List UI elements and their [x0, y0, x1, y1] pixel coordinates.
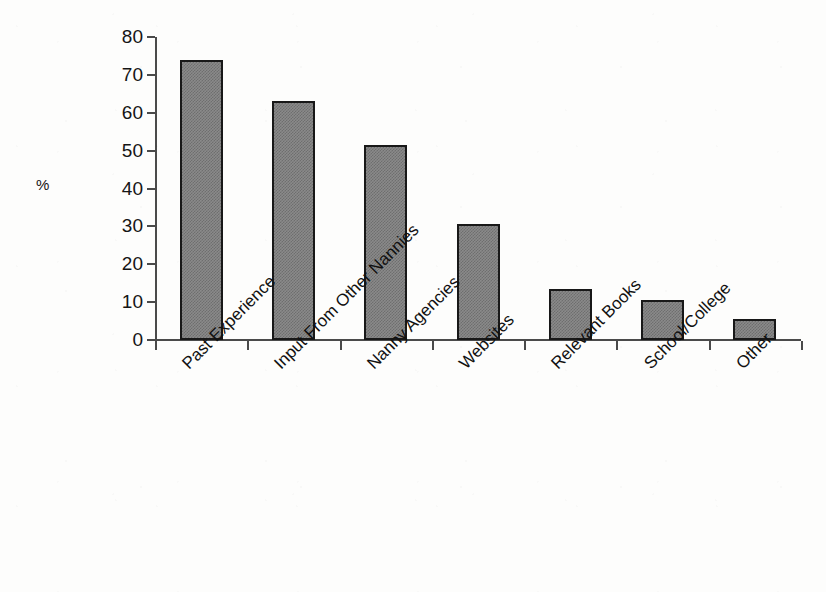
y-axis-tick-label: 50 [103, 141, 143, 160]
x-axis-tick [616, 341, 618, 350]
y-axis-tick-label: 10 [103, 292, 143, 311]
y-axis-tick [147, 188, 155, 190]
y-axis-tick [147, 263, 155, 265]
bar [180, 60, 223, 340]
y-axis-tick-label: 60 [103, 103, 143, 122]
x-axis-tick [709, 341, 711, 350]
x-axis-tick [524, 341, 526, 350]
x-axis-tick [432, 341, 434, 350]
x-axis-tick [247, 341, 249, 350]
y-axis-tick [147, 301, 155, 303]
y-axis-tick-label: 40 [103, 179, 143, 198]
y-axis-tick [147, 339, 155, 341]
y-axis-tick [147, 36, 155, 38]
x-axis-tick [155, 341, 157, 350]
chart-page: % 80706050403020100 Past ExperienceInput… [0, 0, 826, 592]
y-axis-tick [147, 74, 155, 76]
y-axis-tick [147, 112, 155, 114]
y-axis-tick-label: 70 [103, 65, 143, 84]
bar [272, 101, 315, 340]
y-axis-title: % [36, 176, 49, 193]
x-axis-tick [340, 341, 342, 350]
y-axis-tick-label: 30 [103, 216, 143, 235]
x-axis-tick [801, 341, 803, 350]
y-axis-tick-label: 0 [103, 330, 143, 349]
bar-chart-plot-area: % 80706050403020100 Past ExperienceInput… [0, 0, 826, 592]
y-axis-tick [147, 225, 155, 227]
y-axis-line [155, 37, 157, 341]
y-axis-tick [147, 150, 155, 152]
y-axis-tick-label: 80 [103, 27, 143, 46]
y-axis-tick-label: 20 [103, 254, 143, 273]
